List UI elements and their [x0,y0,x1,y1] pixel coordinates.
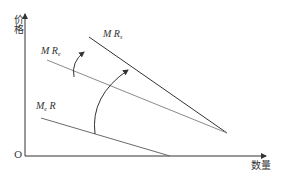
x-axis-label: 数量 [251,161,271,171]
mre-label-main: M R [41,45,58,56]
origin-label: O [14,150,22,160]
diagram-svg [0,0,285,181]
mer-label: Me R [36,101,56,112]
rotate-large-arrow [94,70,128,134]
diagram-canvas: 价格 数量 O M Rs M Re Me R [0,0,285,181]
mrs-label: M Rs [103,29,122,40]
mer-label-tail: R [47,100,56,111]
mre-label: M Re [41,46,61,57]
mrs-label-main: M R [103,28,120,39]
mre-label-sub: e [58,51,61,57]
mrs-label-sub: s [120,34,122,40]
y-axis-label: 价格 [10,14,22,34]
mer-line [41,118,170,156]
